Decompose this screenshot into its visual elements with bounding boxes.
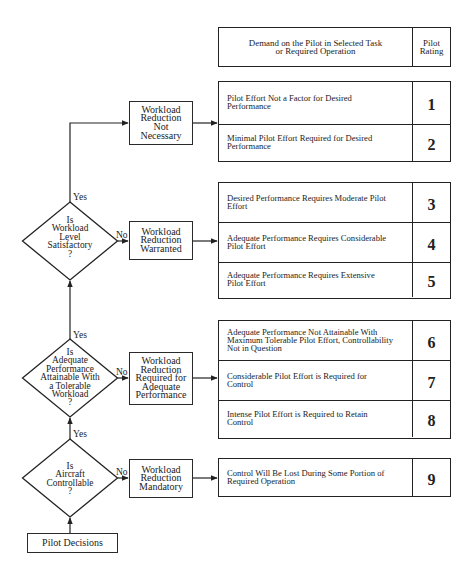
- arrow-satisfactory-yes: [70, 123, 128, 202]
- no-label-controllable: No: [116, 467, 128, 477]
- decision-question-aircraft-controllable: Is Aircraft Controllable ?: [35, 462, 105, 496]
- rating-number: 1: [413, 82, 450, 124]
- rating-row: Adequate Performance Not Attainable With…: [219, 321, 450, 360]
- outcome-box-not-necessary: Workload Reduction Not Necessary: [129, 101, 193, 145]
- rating-number: 3: [413, 183, 450, 222]
- outcome-label: Workload Reduction Required for Adequate…: [135, 357, 186, 400]
- rating-description: Desired Performance Requires Moderate Pi…: [219, 183, 413, 222]
- rating-row: Adequate Performance Requires Extensive …: [219, 262, 450, 298]
- no-label-adequate: No: [116, 367, 128, 377]
- rating-row: Desired Performance Requires Moderate Pi…: [219, 183, 450, 222]
- outcome-box-mandatory: Workload Reduction Mandatory: [129, 459, 193, 498]
- yes-label-controllable: Yes: [73, 429, 87, 439]
- rating-number: 2: [413, 125, 450, 161]
- decision-question-workload-satisfactory: Is Workload Level Satisfactory ?: [35, 216, 105, 258]
- rating-number: 6: [413, 321, 450, 360]
- rating-table-header: Demand on the Pilot in Selected Task or …: [218, 27, 451, 67]
- rating-row: Minimal Pilot Effort Required for Desire…: [219, 124, 450, 161]
- rating-description: Adequate Performance Not Attainable With…: [219, 321, 413, 360]
- outcome-box-required-for-adequate: Workload Reduction Required for Adequate…: [129, 352, 193, 405]
- rating-number: 8: [413, 401, 450, 438]
- rating-group-1: Pilot Effort Not a Factor for Desired Pe…: [218, 81, 451, 162]
- rating-number: 7: [413, 361, 450, 400]
- rating-row: Considerable Pilot Effort is Required fo…: [219, 360, 450, 400]
- outcome-box-warranted: Workload Reduction Warranted: [129, 221, 193, 260]
- outcome-label: Workload Reduction Mandatory: [139, 466, 183, 492]
- rating-description: Minimal Pilot Effort Required for Desire…: [219, 125, 413, 161]
- outcome-label: Workload Reduction Not Necessary: [140, 106, 181, 140]
- rating-description: Intense Pilot Effort is Required to Reta…: [219, 401, 413, 438]
- rating-group-4: Control Will Be Lost During Some Portion…: [218, 458, 451, 497]
- rating-row: Adequate Performance Requires Considerab…: [219, 222, 450, 262]
- rating-row: Intense Pilot Effort is Required to Reta…: [219, 400, 450, 438]
- yes-label-satisfactory: Yes: [73, 192, 87, 202]
- rating-row: Pilot Effort Not a Factor for Desired Pe…: [219, 82, 450, 124]
- rating-number: 4: [413, 223, 450, 262]
- rating-description: Considerable Pilot Effort is Required fo…: [219, 361, 413, 400]
- yes-label-adequate: Yes: [73, 330, 87, 340]
- outcome-label: Workload Reduction Warranted: [140, 228, 181, 254]
- rating-row: Control Will Be Lost During Some Portion…: [219, 459, 450, 496]
- rating-number: 9: [413, 459, 450, 496]
- header-rating-label: Pilot Rating: [413, 28, 450, 66]
- rating-description: Adequate Performance Requires Considerab…: [219, 223, 413, 262]
- rating-description: Control Will Be Lost During Some Portion…: [219, 459, 413, 496]
- rating-description: Adequate Performance Requires Extensive …: [219, 263, 413, 298]
- start-box-pilot-decisions: Pilot Decisions: [27, 533, 118, 553]
- header-demand-label: Demand on the Pilot in Selected Task or …: [219, 28, 413, 66]
- rating-description: Pilot Effort Not a Factor for Desired Pe…: [219, 82, 413, 124]
- rating-group-2: Desired Performance Requires Moderate Pi…: [218, 182, 451, 299]
- rating-group-3: Adequate Performance Not Attainable With…: [218, 320, 451, 439]
- no-label-satisfactory: No: [116, 230, 128, 240]
- decision-question-adequate-performance: Is Adequate Performance Attainable With …: [35, 348, 105, 407]
- rating-number: 5: [413, 263, 450, 298]
- start-label: Pilot Decisions: [42, 538, 103, 548]
